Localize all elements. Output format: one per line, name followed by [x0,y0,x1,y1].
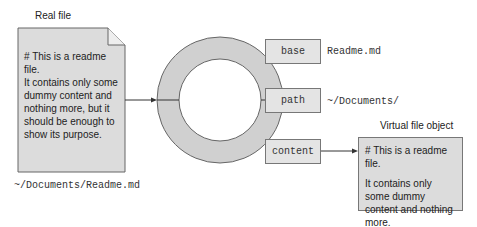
property-base: base [265,39,321,64]
virtual-file-heading: # This is a readme file. [365,144,456,170]
real-file-heading: # This is a readme file. [24,50,122,76]
real-file-title: Real file [35,10,71,21]
real-file-body: It contains only some dummy content and … [24,76,120,141]
virtual-file-body: It contains only some dummy content and … [365,177,456,227]
property-path-value: ~/Documents/ [327,96,399,107]
real-file-path: ~/Documents/Readme.md [14,180,140,191]
virtual-file-box: # This is a readme file. It contains onl… [358,137,463,211]
virtual-file-title: Virtual file object [380,120,453,131]
property-base-value: Readme.md [327,46,381,57]
property-content: content [265,139,321,164]
property-path: path [265,88,321,113]
